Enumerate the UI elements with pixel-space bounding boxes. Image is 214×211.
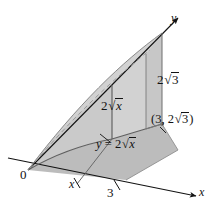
- point-close-paren: ): [189, 112, 193, 126]
- label-x-tick-variable: x: [69, 178, 74, 190]
- label-x-axis: x: [199, 186, 204, 198]
- label-2-sqrt-3: 2√3: [157, 72, 179, 86]
- figure-canvas: 2√3 (3, 2√3) 2√x y = 2√x y x 0 x 3: [0, 0, 214, 211]
- sqrt-icon: √x: [121, 137, 136, 151]
- sqrt-icon: √3: [164, 72, 180, 86]
- curve-eq-relation: =: [105, 137, 112, 151]
- x-tick-mark-x: [74, 178, 80, 188]
- label-2-sqrt-x-radicand: x: [115, 98, 123, 112]
- x-tick-mark-3: [114, 180, 120, 190]
- point-y-radicand: 3: [181, 112, 189, 126]
- sqrt-icon: √x: [108, 98, 123, 112]
- label-corner-point: (3, 2√3): [151, 112, 193, 126]
- label-2-sqrt-x: 2√x: [101, 98, 123, 112]
- curve-eq-lhs: y: [96, 137, 102, 151]
- label-origin: 0: [20, 168, 27, 181]
- label-2-sqrt-3-radicand: 3: [171, 72, 179, 86]
- curve-eq-radicand: x: [129, 137, 136, 151]
- label-x-tick-three: 3: [107, 186, 114, 199]
- label-y-axis: y: [171, 12, 176, 24]
- label-curve-equation: y = 2√x: [96, 137, 136, 151]
- sqrt-icon: √3: [174, 112, 189, 126]
